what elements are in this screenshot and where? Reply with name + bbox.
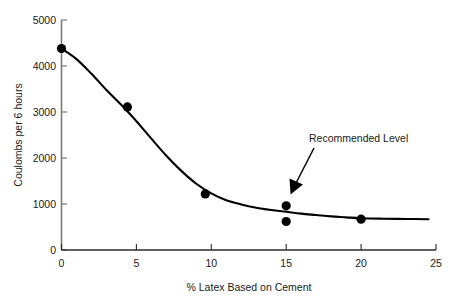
y-axis-ticks bbox=[62, 20, 68, 250]
x-tick-label-0: 0 bbox=[59, 257, 65, 269]
data-point bbox=[57, 44, 66, 53]
y-tick-label-4000: 4000 bbox=[33, 60, 57, 72]
y-tick-label-5000: 5000 bbox=[33, 14, 57, 26]
y-tick-label-0: 0 bbox=[50, 244, 56, 256]
x-tick-label-5: 5 bbox=[133, 257, 139, 269]
data-point bbox=[123, 102, 132, 111]
x-tick-label-15: 15 bbox=[280, 257, 292, 269]
y-tick-label-2000: 2000 bbox=[33, 152, 57, 164]
x-axis-title: % Latex Based on Cement bbox=[187, 281, 312, 293]
y-tick-label-3000: 3000 bbox=[33, 106, 57, 118]
recommended-level-arrow bbox=[290, 148, 315, 195]
y-tick-label-1000: 1000 bbox=[33, 198, 57, 210]
x-tick-label-25: 25 bbox=[430, 257, 442, 269]
x-tick-label-10: 10 bbox=[205, 257, 217, 269]
annotation-arrow-shaft bbox=[295, 148, 315, 186]
x-axis-ticks bbox=[62, 244, 437, 250]
data-point bbox=[357, 215, 366, 224]
data-point bbox=[282, 217, 291, 226]
chart-plot-area: 5000 4000 3000 2000 1000 0 Coulombs per … bbox=[0, 0, 455, 307]
annotation-arrow-head bbox=[290, 179, 304, 195]
annotation-recommended-level: Recommended Level bbox=[309, 132, 408, 144]
x-tick-label-20: 20 bbox=[355, 257, 367, 269]
data-point bbox=[282, 201, 291, 210]
y-axis-title: Coulombs per 6 hours bbox=[12, 83, 24, 186]
chart-container: 5000 4000 3000 2000 1000 0 Coulombs per … bbox=[0, 0, 455, 307]
data-point bbox=[201, 189, 210, 198]
